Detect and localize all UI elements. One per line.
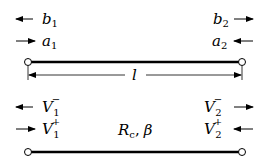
b2-label: b2 [213,10,229,29]
a1-label: a1 [42,32,57,51]
top-left-terminal-icon [25,59,32,66]
a2-label: a2 [212,32,227,51]
transmission-line-diagram: b1 a1 b2 a2 l V−1 V+1 V−2 V+2 [0,0,269,163]
b1-label: b1 [42,10,58,29]
length-label: l [132,66,137,84]
top-right-terminal-icon [239,59,246,66]
line-params-label: Rc,β [117,121,153,140]
v2-minus-label: V−2 [204,94,222,118]
bottom-right-terminal-icon [239,149,246,156]
bottom-left-terminal-icon [25,149,32,156]
voltage-waves-section: V−1 V+1 V−2 V+2 Rc,β [16,94,253,156]
v1-plus-label: V+1 [42,116,60,140]
v2-plus-label: V+2 [204,116,222,140]
wave-variables-section: b1 a1 b2 a2 l [16,10,253,84]
v1-minus-label: V−1 [42,94,60,118]
